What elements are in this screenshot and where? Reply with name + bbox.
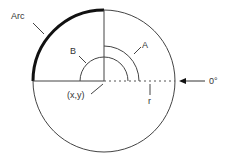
arc-label-pointer [33,23,44,34]
center-label: (x,y) [67,90,85,100]
highlighted-arc [33,10,104,81]
zero-degree-arrow-head [179,78,186,84]
angle-b-label: B [70,46,76,56]
radius-label: r [148,96,151,106]
angle-a-pointer [134,47,141,54]
arc-diagram: Arc B A (x,y) r 0° [0,0,231,156]
zero-degree-label: 0° [209,76,218,86]
angle-a-arc [104,46,139,81]
center-pointer [91,84,103,94]
angle-b-pointer [79,56,86,63]
arc-label: Arc [11,11,25,21]
angle-a-label: A [142,40,148,50]
